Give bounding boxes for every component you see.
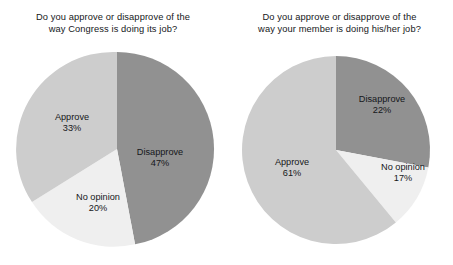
pie-label-approve-congress: Approve 33% [55,112,89,135]
pie-label-no-opinion-congress-name: No opinion [76,192,120,202]
pie-label-no-opinion-member-name: No opinion [381,162,425,172]
pie-congress-approval: Approve 33% Disapprove 47% No opinion 20… [0,0,226,265]
pie-label-disapprove-member-name: Disapprove [359,94,405,104]
pie-label-approve-member: Approve 61% [275,157,309,180]
pie-chart-pair: Do you approve or disapprove of theway C… [0,0,453,265]
pie-label-disapprove-member-value: 22% [359,105,405,116]
pie-label-no-opinion-member-value: 17% [381,173,425,184]
pie-member-approval: Disapprove 22% Approve 61% No opinion 17… [226,0,453,265]
pie-label-approve-member-value: 61% [275,168,309,179]
pie-label-approve-congress-name: Approve [55,112,89,122]
chart-panel-member-approval: Do you approve or disapprove of theway y… [226,0,453,265]
chart-panel-congress-approval: Do you approve or disapprove of theway C… [0,0,226,265]
pie-congress-svg [0,0,226,265]
pie-label-approve-member-name: Approve [275,157,309,167]
pie-label-no-opinion-member: No opinion 17% [381,162,425,185]
pie-label-no-opinion-congress-value: 20% [76,203,120,214]
pie-label-disapprove-member: Disapprove 22% [359,94,405,117]
pie-label-disapprove-congress: Disapprove 47% [137,147,183,170]
pie-label-disapprove-congress-name: Disapprove [137,147,183,157]
pie-member-svg [226,0,453,265]
pie-label-no-opinion-congress: No opinion 20% [76,192,120,215]
pie-label-approve-congress-value: 33% [55,123,89,134]
pie-label-disapprove-congress-value: 47% [137,158,183,169]
